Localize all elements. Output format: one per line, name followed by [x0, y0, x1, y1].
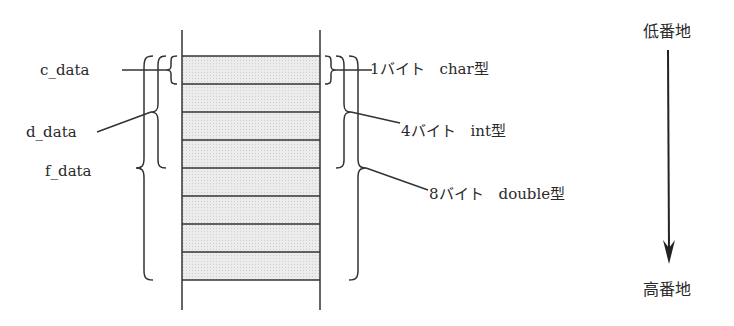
label-int-4-byte: 4バイト int型	[401, 122, 506, 140]
left-braces	[97, 56, 177, 280]
label-c-data: c_data	[40, 61, 89, 79]
label-high-address: 高番地	[643, 281, 691, 299]
label-double-8-byte: 8バイト double型	[429, 185, 565, 203]
memory-cells	[182, 30, 320, 310]
address-arrow	[663, 50, 675, 264]
label-d-data: d_data	[26, 123, 77, 141]
label-char-1-byte: 1バイト char型	[370, 60, 489, 78]
diagram-graphics	[0, 0, 734, 326]
memory-layout-diagram: c_data d_data f_data 1バイト char型 4バイト int…	[0, 0, 734, 326]
right-braces	[325, 56, 428, 280]
label-low-address: 低番地	[643, 23, 691, 41]
label-f-data: f_data	[45, 162, 92, 180]
